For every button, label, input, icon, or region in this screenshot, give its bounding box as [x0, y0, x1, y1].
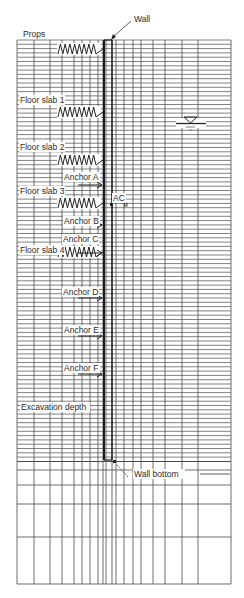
wall-bottom-marker: [113, 460, 116, 463]
excavation-mesh-diagram: [0, 0, 244, 598]
water-table-icon: [176, 117, 206, 130]
wall-leader-line: [112, 21, 131, 38]
wall-bottom-leader-line: [116, 464, 128, 477]
wall-label: Wall: [133, 14, 151, 24]
ac-label: AC: [112, 193, 126, 203]
anchor-c-label: Anchor C: [62, 234, 99, 244]
floor-slab-1-label: Floor slab 1: [19, 95, 65, 105]
anchor-d-label: Anchor D: [62, 287, 99, 297]
ac-marker-filled: [110, 203, 113, 206]
floor-slab-4-label: Floor slab 4: [19, 245, 65, 255]
excavation-depth-label: Excavation depth: [20, 402, 90, 412]
floor-slab-3-label: Floor slab 3: [19, 186, 65, 196]
floor-slab-2-label: Floor slab 2: [19, 142, 65, 152]
anchor-a-label: Anchor A: [63, 172, 100, 182]
anchor-f-label: Anchor F: [63, 363, 100, 373]
anchor-b-label: Anchor B: [63, 216, 100, 226]
anchor-e-label: Anchor E: [63, 325, 100, 335]
wall-bottom-label: Wall bottom: [133, 469, 185, 479]
ac-marker-open: [125, 204, 128, 207]
props-label: Props: [22, 29, 46, 39]
